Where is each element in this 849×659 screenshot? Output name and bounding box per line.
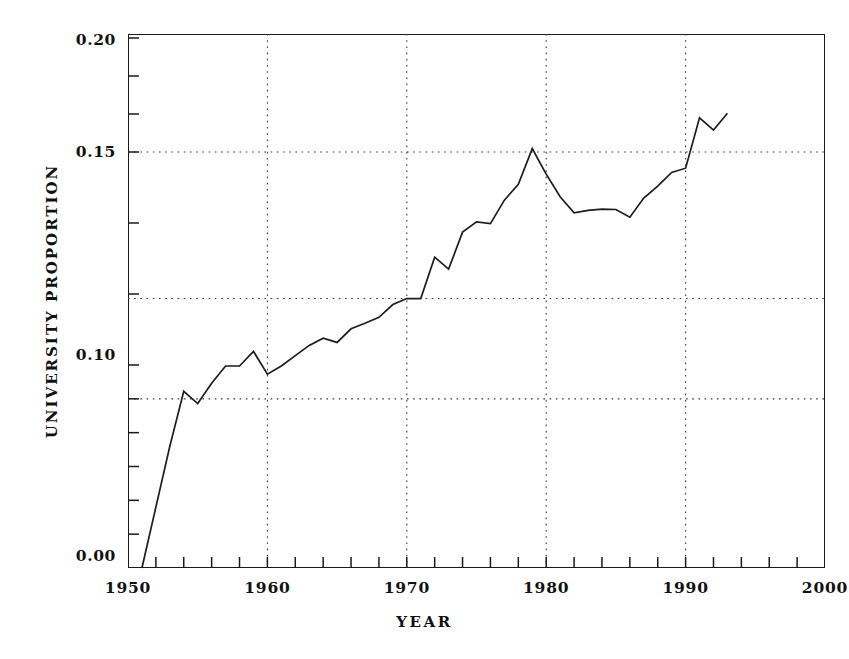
x-tick-label: 1990 xyxy=(646,578,726,597)
y-tick-label: 0.10 xyxy=(56,345,116,364)
y-tick-label: 0.20 xyxy=(56,30,116,49)
y-tick-label: 0.00 xyxy=(56,546,116,565)
x-axis-tickmarks xyxy=(156,557,797,568)
chart-plot-area xyxy=(0,0,849,659)
x-tick-label: 2000 xyxy=(785,578,849,597)
university-proportion-line xyxy=(142,113,727,568)
x-tick-label: 1970 xyxy=(367,578,447,597)
x-tick-label: 1960 xyxy=(227,578,307,597)
gridlines xyxy=(128,152,825,399)
y-axis-title: UNIVERSITY PROPORTION xyxy=(43,41,61,561)
y-axis-tickmarks xyxy=(128,38,139,534)
chart-canvas: 0.000.100.150.20 19501960197019801990200… xyxy=(0,0,849,659)
y-tick-label: 0.15 xyxy=(56,142,116,161)
x-tick-label: 1980 xyxy=(506,578,586,597)
x-tick-label: 1950 xyxy=(88,578,168,597)
x-axis-title: YEAR xyxy=(0,613,849,631)
vertical-gridlines xyxy=(267,34,685,568)
